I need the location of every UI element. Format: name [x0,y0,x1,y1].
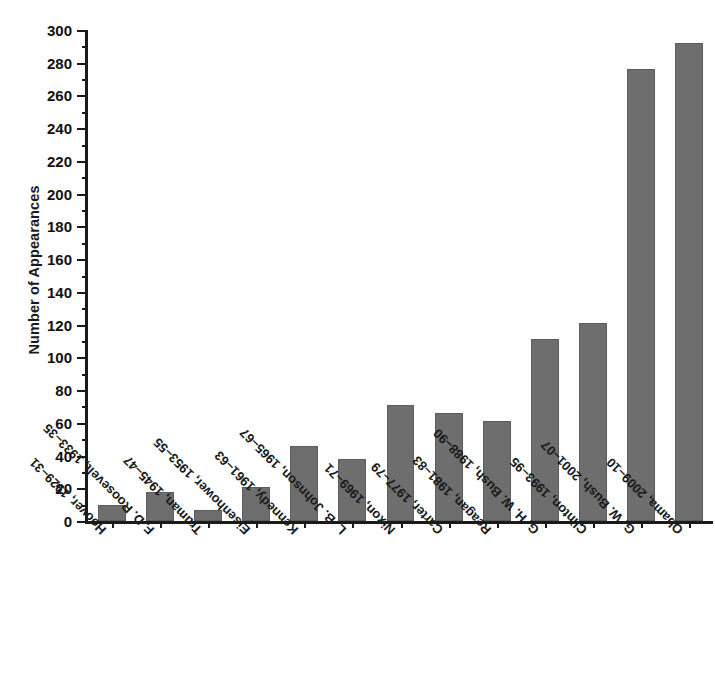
y-axis-tick [77,357,88,359]
y-axis-minor-tick [82,177,88,179]
y-axis-tick [77,259,88,261]
y-axis-tick [77,194,88,196]
y-axis-tick-label: 260 [47,87,72,104]
y-axis-tick-label: 80 [55,382,72,399]
y-axis-tick [77,63,88,65]
y-axis-minor-tick [82,439,88,441]
bar [627,69,655,521]
y-axis-minor-tick [82,243,88,245]
y-axis-tick [77,161,88,163]
y-axis-minor-tick [82,210,88,212]
y-axis-minor-tick [82,79,88,81]
y-axis-tick [77,423,88,425]
y-axis-minor-tick [82,276,88,278]
x-axis-label: Eisenhower, 1953–55 [243,527,346,630]
plot-area: 0204060801001201401601802002202402602803… [85,30,713,524]
y-axis-tick-label: 200 [47,185,72,202]
y-axis-tick-label: 220 [47,152,72,169]
y-axis-tick [77,390,88,392]
y-axis-tick-label: 180 [47,218,72,235]
y-axis-minor-tick [82,46,88,48]
y-axis-tick [77,488,88,490]
bars-layer [88,30,713,521]
y-axis-tick-label: 240 [47,120,72,137]
bar-chart: Number of Appearances 020406080100120140… [0,0,715,696]
y-axis-tick [77,30,88,32]
y-axis-tick-label: 120 [47,316,72,333]
y-axis-minor-tick [82,374,88,376]
y-axis-tick-label: 300 [47,22,72,39]
y-axis-tick-label: 100 [47,349,72,366]
y-axis-tick [77,292,88,294]
y-axis-tick [77,226,88,228]
y-axis-tick-label: 0 [64,513,72,530]
y-axis-tick [77,128,88,130]
y-axis-tick-label: 280 [47,54,72,71]
y-axis-minor-tick [82,308,88,310]
x-axis-labels: Hoover, 1929–31F. D. Roosevelt, 1933–35T… [85,527,715,696]
y-axis-tick-label: 140 [47,283,72,300]
y-axis-minor-tick [82,406,88,408]
bar [675,43,703,521]
y-axis-minor-tick [82,112,88,114]
y-axis-minor-tick [82,341,88,343]
y-axis-minor-tick [82,145,88,147]
y-axis-tick [77,95,88,97]
y-axis-tick [77,325,88,327]
x-axis-label: Kennedy, 1961–63 [291,527,381,617]
y-axis-tick-label: 160 [47,251,72,268]
